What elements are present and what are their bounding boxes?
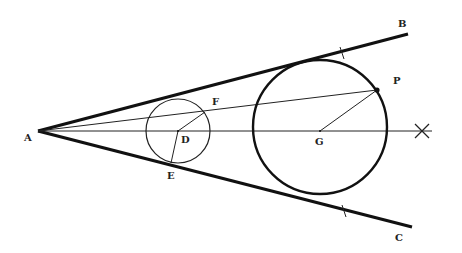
- large-circle: [253, 60, 387, 194]
- point-D: [177, 130, 179, 132]
- label-C: C: [395, 232, 403, 243]
- label-E: E: [167, 170, 175, 181]
- label-P: P: [393, 75, 401, 86]
- ray-AC: [38, 131, 412, 227]
- geometry-diagram: A B C D E F G P: [0, 0, 462, 253]
- line-AP: [38, 90, 377, 131]
- label-F: F: [212, 96, 219, 107]
- ray-AB: [38, 34, 408, 131]
- point-G: [319, 130, 321, 132]
- radius-DF: [178, 112, 205, 131]
- label-A: A: [23, 132, 32, 143]
- label-B: B: [398, 18, 406, 29]
- label-D: D: [181, 134, 190, 145]
- label-G: G: [315, 136, 324, 147]
- radius-DE: [171, 131, 178, 163]
- point-P: [374, 87, 379, 92]
